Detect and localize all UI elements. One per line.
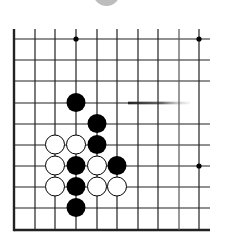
black-stone[interactable] — [67, 177, 86, 196]
star-point — [196, 36, 201, 41]
black-stone[interactable] — [88, 135, 107, 154]
star-point — [73, 36, 78, 41]
white-stone[interactable] — [46, 177, 65, 196]
white-stone[interactable] — [88, 177, 107, 196]
white-stone[interactable] — [46, 156, 65, 175]
black-stone[interactable] — [67, 156, 86, 175]
white-stone[interactable] — [108, 177, 127, 196]
scan-smear — [128, 102, 190, 105]
white-stone[interactable] — [67, 135, 86, 154]
star-point — [196, 163, 201, 168]
black-stone[interactable] — [88, 114, 107, 133]
black-stone[interactable] — [108, 156, 127, 175]
white-stone[interactable] — [88, 156, 107, 175]
go-board[interactable] — [0, 0, 226, 249]
white-stone[interactable] — [46, 135, 65, 154]
black-stone[interactable] — [67, 198, 86, 217]
stones-layer — [46, 93, 127, 217]
board-grid — [14, 29, 210, 231]
black-stone[interactable] — [67, 93, 86, 112]
